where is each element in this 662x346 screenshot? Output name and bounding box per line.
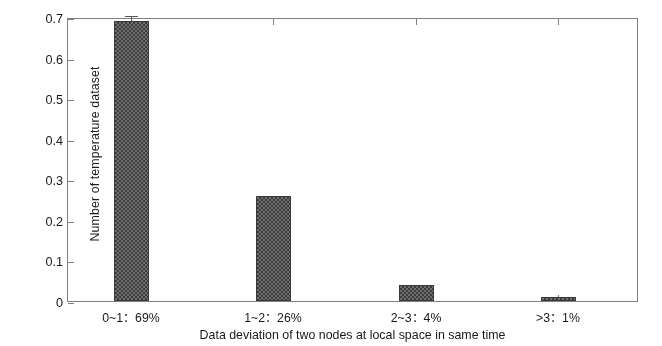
y-tick-label: 0.6 — [45, 53, 63, 67]
y-tick-mark — [68, 141, 74, 142]
y-tick-mark — [68, 222, 74, 223]
y-tick-label: 0 — [56, 296, 63, 310]
bar-2-3 — [399, 285, 434, 301]
bar-chart-figure: Number of temperature dataset 0 0.1 0.2 … — [0, 0, 662, 346]
bar-1-2 — [256, 196, 291, 302]
bar-0-1 — [114, 21, 149, 301]
y-tick-label: 0.3 — [45, 174, 63, 188]
y-tick-label: 0.1 — [45, 255, 63, 269]
x-tick-mark-top — [558, 19, 559, 25]
y-tick-mark — [68, 19, 74, 20]
y-tick-label: 0.2 — [45, 215, 63, 229]
y-tick-label: 0.4 — [45, 134, 63, 148]
y-tick-mark — [68, 262, 74, 263]
x-axis-title: Data deviation of two nodes at local spa… — [68, 328, 637, 342]
y-tick-label: 0.5 — [45, 93, 63, 107]
y-axis-title: Number of temperature dataset — [88, 29, 102, 279]
x-tick-label: 2~3：4% — [391, 308, 442, 326]
x-tick-mark-top — [416, 19, 417, 25]
x-tick-label: 0~1：69% — [102, 308, 159, 326]
y-tick-mark — [68, 100, 74, 101]
y-tick-mark — [68, 60, 74, 61]
plot-area: Number of temperature dataset 0 0.1 0.2 … — [67, 18, 638, 302]
y-tick-mark — [68, 303, 74, 304]
bar-gt3 — [541, 297, 576, 301]
x-tick-mark-top — [273, 19, 274, 25]
y-tick-label: 0.7 — [45, 12, 63, 26]
x-tick-label: >3：1% — [536, 308, 580, 326]
error-bar-cap-0-1 — [125, 16, 138, 17]
y-tick-mark — [68, 181, 74, 182]
x-tick-label: 1~2：26% — [244, 308, 301, 326]
